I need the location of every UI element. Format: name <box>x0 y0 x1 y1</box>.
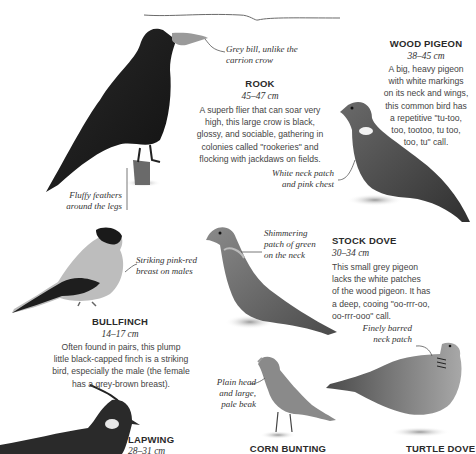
note-line: around the legs <box>40 201 122 212</box>
note-line: breast on males <box>136 266 226 277</box>
desc-line: Often found in pairs, this plump <box>42 341 200 353</box>
desc-line: oo-rrr-ooo" call. <box>332 310 472 322</box>
rook-bill-note: Grey bill, unlike the carrion crow <box>226 44 336 66</box>
desc-line: bird, especially the male (the female <box>42 365 200 377</box>
corn-bunting-title: CORN BUNTING <box>238 443 338 454</box>
desc-line: a deep, cooing "oo-rrr-oo, <box>332 298 472 310</box>
rook-size: 45–47 cm <box>180 91 340 101</box>
note-line: pale beak <box>196 399 256 410</box>
desc-line: This small grey pigeon <box>332 261 472 273</box>
rook-title: ROOK <box>180 78 340 89</box>
desc-line: too, tootoo, tu too, <box>378 124 474 136</box>
note-line: neck patch <box>330 334 412 345</box>
note-line: and pink chest <box>250 179 334 190</box>
desc-line: on its neck and wings, <box>378 87 474 99</box>
bullfinch-size: 14–17 cm <box>60 329 180 339</box>
desc-line: this common bird has <box>378 100 474 112</box>
desc-line: with white markings <box>378 75 474 87</box>
desc-line: A superb flier that can soar very <box>178 104 342 116</box>
desc-line: high, this large crow is black, <box>178 116 342 128</box>
desc-line: of the wood pigeon. It has <box>332 285 472 297</box>
note-line: Finely barred <box>330 323 412 334</box>
note-line: Plain head <box>196 377 256 388</box>
rook-description: A superb flier that can soar very high, … <box>178 104 342 165</box>
note-line: carrion crow <box>226 55 336 66</box>
desc-line: lacks the white patches <box>332 273 472 285</box>
note-line: Fluffy feathers <box>40 190 122 201</box>
note-line: White neck patch <box>250 168 334 179</box>
lapwing-illustration <box>0 385 140 454</box>
stock-dove-size: 30–34 cm <box>332 248 462 258</box>
stock-dove-title: STOCK DOVE <box>332 235 462 246</box>
lapwing-title: LAPWING <box>128 434 198 445</box>
desc-line: flocking with jackdaws on fields. <box>178 153 342 165</box>
turtle-dove-illustration <box>326 343 462 437</box>
bullfinch-title: BULLFINCH <box>60 316 180 327</box>
wood-pigeon-description: A big, heavy pigeon with white markings … <box>378 63 474 148</box>
wood-pigeon-size: 38–45 cm <box>380 51 472 61</box>
rook-legs-note: Fluffy feathers around the legs <box>40 190 122 212</box>
wood-pigeon-neck-note: White neck patch and pink chest <box>250 168 334 190</box>
desc-line: glossy, and sociable, gathering in <box>178 128 342 140</box>
lapwing-size: 28–31 cm <box>128 446 198 454</box>
note-line: and large, <box>196 388 256 399</box>
bullfinch-breast-note: Striking pink-red breast on males <box>136 255 226 277</box>
desc-line: a repetitive "tu-too, <box>378 112 474 124</box>
desc-line: colonies called "rookeries" and <box>178 141 342 153</box>
top-decorative-line <box>144 14 340 20</box>
desc-line: A big, heavy pigeon <box>378 63 474 75</box>
turtle-dove-neck-note: Finely barred neck patch <box>330 323 412 345</box>
note-line: Grey bill, unlike the <box>226 44 336 55</box>
desc-line: has a grey-brown breast). <box>42 378 200 390</box>
wood-pigeon-title: WOOD PIGEON <box>380 38 472 49</box>
stock-dove-description: This small grey pigeon lacks the white p… <box>332 261 472 322</box>
desc-line: too, tu" call. <box>378 136 474 148</box>
desc-line: little black-capped finch is a striking <box>42 353 200 365</box>
corn-bunting-head-note: Plain head and large, pale beak <box>196 377 256 410</box>
bullfinch-illustration <box>12 228 123 313</box>
note-line: Striking pink-red <box>136 255 226 266</box>
bullfinch-description: Often found in pairs, this plump little … <box>42 341 200 390</box>
turtle-dove-title: TURTLE DOVE <box>406 443 476 454</box>
corn-bunting-illustration <box>258 357 336 439</box>
